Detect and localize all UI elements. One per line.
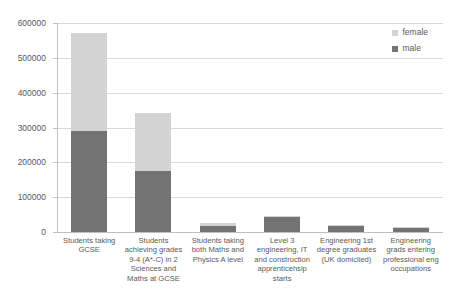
x-axis-tick-label: Students taking both Maths and Physics A… xyxy=(186,236,250,283)
bar-segment-female[interactable] xyxy=(71,33,107,131)
legend-label-male: male xyxy=(402,44,420,53)
legend-swatch-female-icon xyxy=(392,30,398,36)
x-axis-tick-label: Students achieving grades 9-4 (A*-C) in … xyxy=(121,236,185,283)
legend-item-female[interactable]: female xyxy=(392,28,428,37)
bar-slot xyxy=(379,23,443,232)
y-axis-tick-label: 300000 xyxy=(18,123,46,132)
x-axis-tick-label: Students taking GCSE xyxy=(57,236,121,283)
bar-slot xyxy=(250,23,314,232)
bars-layer xyxy=(57,23,443,232)
bar-segment-male[interactable] xyxy=(328,226,364,232)
bar-segment-male[interactable] xyxy=(200,226,236,232)
x-axis-line xyxy=(57,232,443,233)
y-axis: 6000005000004000003000002000001000000 xyxy=(0,23,52,232)
x-axis-tick-label: Engineering grads entering professional … xyxy=(379,236,443,283)
x-axis-tick-label: Level 3 engineering, IT and construction… xyxy=(250,236,314,283)
bar-segment-male[interactable] xyxy=(393,228,429,232)
y-axis-tick-label: 400000 xyxy=(18,88,46,97)
bar-segment-male[interactable] xyxy=(264,217,300,232)
bar-slot xyxy=(314,23,378,232)
bar-segment-male[interactable] xyxy=(71,131,107,232)
y-axis-tick-label: 600000 xyxy=(18,19,46,28)
x-axis-labels: Students taking GCSEStudents achieving g… xyxy=(57,236,443,283)
bar-stack[interactable] xyxy=(200,223,236,232)
bar-slot xyxy=(186,23,250,232)
x-axis-tick-label: Engineering 1st degree graduates (UK dom… xyxy=(314,236,378,283)
bar-segment-male[interactable] xyxy=(135,171,171,232)
chart-legend: female male xyxy=(392,28,428,53)
bar-stack[interactable] xyxy=(393,227,429,232)
bar-slot xyxy=(57,23,121,232)
stacked-bar-chart: 6000005000004000003000002000001000000 St… xyxy=(0,0,454,304)
legend-label-female: female xyxy=(402,28,428,37)
bar-stack[interactable] xyxy=(328,225,364,232)
legend-item-male[interactable]: male xyxy=(392,44,428,53)
bar-stack[interactable] xyxy=(135,113,171,232)
bar-segment-female[interactable] xyxy=(135,113,171,171)
bar-stack[interactable] xyxy=(71,33,107,232)
bar-stack[interactable] xyxy=(264,216,300,232)
bar-slot xyxy=(121,23,185,232)
y-axis-tick-label: 500000 xyxy=(18,53,46,62)
y-axis-tick-mark xyxy=(53,232,57,233)
y-axis-tick-label: 0 xyxy=(41,228,46,237)
y-axis-tick-label: 200000 xyxy=(18,158,46,167)
y-axis-tick-label: 100000 xyxy=(18,193,46,202)
legend-swatch-male-icon xyxy=(392,46,398,52)
